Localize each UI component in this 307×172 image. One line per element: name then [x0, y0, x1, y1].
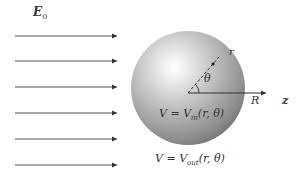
z-axis-label: z — [282, 94, 288, 107]
inside-potential: V = Vin(r, θ) — [159, 107, 224, 122]
theta-label: θ — [204, 72, 211, 85]
sphere — [131, 31, 245, 145]
field-arrows — [15, 36, 117, 165]
r-label: r — [229, 46, 234, 57]
point-marker — [211, 62, 214, 65]
diagram-canvas — [0, 0, 307, 172]
field-label: E0 — [33, 5, 47, 21]
outside-potential: V = Vout(r, θ) — [155, 152, 225, 167]
radius-label: R — [251, 94, 259, 107]
